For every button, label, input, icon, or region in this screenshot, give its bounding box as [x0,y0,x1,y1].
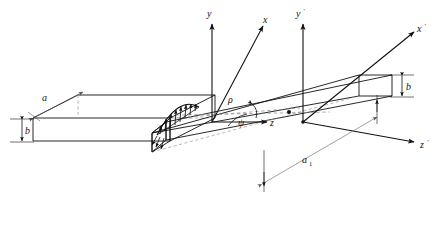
dimension-label-b-left: b [25,125,30,136]
angle-label-psi: ψ [238,117,245,128]
dim-a-ext-left [28,112,40,121]
dimension-b-left [10,119,34,142]
axis-label-y-prime-tick: ' [303,7,305,15]
left-plate-front-face [33,118,170,141]
fold-junction [152,118,170,152]
axis-label-y-prime-group: y ' [295,7,305,19]
rho-endpoint-dot [287,110,291,114]
load-arrow [180,107,181,122]
load-arrow [190,104,191,115]
right-plate [152,75,392,152]
axis-label-z: z [269,117,274,128]
axis-label-z-prime-group: z ' [419,138,429,150]
axis-label-x-prime-tick: ' [424,22,426,30]
axis-label-z-prime: z [419,139,424,150]
dim-a-line [33,92,83,118]
dimension-a [28,92,83,121]
dim-a1-line [262,117,377,184]
axis-label-y: y [206,8,212,19]
x-prime-axis-line [303,32,414,122]
load-arrow-lower [152,136,157,145]
axis-group-unprimed [212,24,267,122]
axis-label-x-prime: x [416,23,422,34]
dimension-label-b-right: b [406,81,411,92]
diagram-svg: y x z y ' x ' z ' a b b a 1 ρ ψ [0,0,446,226]
figure-canvas: y x z y ' x ' z ' a b b a 1 ρ ψ [0,0,446,226]
angle-label-rho: ρ [227,94,233,105]
load-baseline [157,107,199,135]
axis-group-primed [303,24,414,142]
dimension-label-a1: a [302,154,307,165]
dimension-label-a: a [42,92,47,103]
axis-label-y-prime: y [295,8,301,19]
dimension-label-a1-subscript: 1 [309,160,312,167]
axis-label-z-prime-tick: ' [427,138,429,146]
axis-label-x: x [262,14,268,25]
rho-arc [252,104,257,118]
axis-label-x-prime-group: x ' [416,22,426,34]
z-prime-axis-line [303,122,414,142]
dimension-a1 [262,95,377,192]
primed-origin-dot [301,120,305,124]
